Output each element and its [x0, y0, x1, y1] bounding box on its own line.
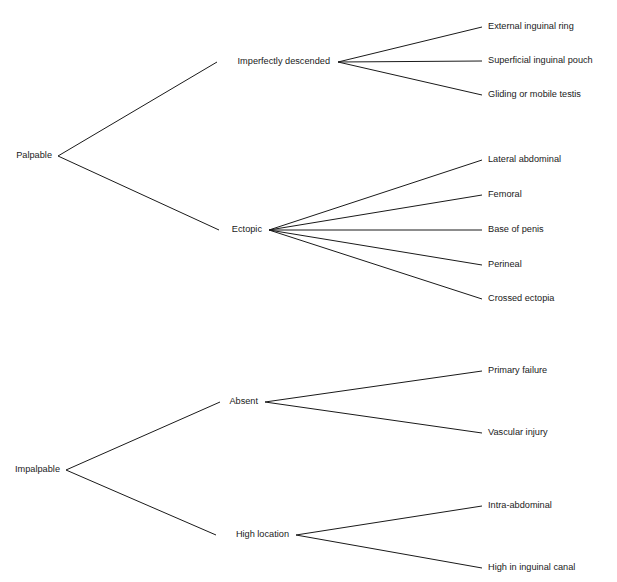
edge-absent-to-vascular-injury [265, 402, 482, 433]
leaf-label-primary-failure: Primary failure [488, 365, 547, 375]
edge-high-location-to-intra-abdominal [296, 506, 482, 535]
edge-palpable-to-ectopic [58, 156, 219, 230]
node-label-absent: Absent [229, 396, 258, 406]
edge-ectopic-to-perineal [269, 230, 482, 265]
leaf-label-gliding-or-mobile-testis: Gliding or mobile testis [488, 89, 581, 99]
leaf-label-perineal: Perineal [488, 259, 522, 269]
edge-absent-to-primary-failure [265, 371, 482, 402]
edge-ectopic-to-crossed-ectopia [269, 230, 482, 299]
node-label-high-location: High location [236, 529, 289, 539]
node-label-ectopic: Ectopic [232, 224, 263, 234]
leaf-label-crossed-ectopia: Crossed ectopia [488, 293, 555, 303]
edge-imperfectly-descended-to-gliding-or-mobile-testis [338, 62, 482, 95]
edge-imperfectly-descended-to-superficial-inguinal-pouch [338, 61, 482, 62]
leaf-label-external-inguinal-ring: External inguinal ring [488, 21, 574, 31]
tree-svg-canvas: PalpableImperfectly descendedExternal in… [0, 0, 617, 582]
edge-palpable-to-imperfectly-descended [58, 62, 217, 156]
leaf-label-superficial-inguinal-pouch: Superficial inguinal pouch [488, 55, 593, 65]
leaf-label-base-of-penis: Base of penis [488, 224, 544, 234]
node-label-palpable: Palpable [16, 150, 52, 160]
edge-impalpable-to-high-location [66, 470, 216, 535]
classification-tree-diagram: PalpableImperfectly descendedExternal in… [0, 0, 617, 582]
edge-ectopic-to-lateral-abdominal [269, 160, 482, 230]
leaf-label-femoral: Femoral [488, 189, 522, 199]
leaf-label-intra-abdominal: Intra-abdominal [488, 500, 552, 510]
node-label-impalpable: Impalpable [15, 464, 60, 474]
edge-imperfectly-descended-to-external-inguinal-ring [338, 27, 482, 62]
edge-impalpable-to-absent [66, 402, 220, 470]
leaf-label-high-in-inguinal-canal: High in inguinal canal [488, 562, 575, 572]
leaf-label-vascular-injury: Vascular injury [488, 427, 548, 437]
edges-layer [58, 27, 482, 568]
leaf-label-lateral-abdominal: Lateral abdominal [488, 154, 561, 164]
edge-ectopic-to-femoral [269, 195, 482, 230]
edge-high-location-to-high-in-inguinal-canal [296, 535, 482, 568]
node-label-imperfectly-descended: Imperfectly descended [238, 56, 330, 66]
labels-layer: PalpableImperfectly descendedExternal in… [15, 21, 593, 572]
